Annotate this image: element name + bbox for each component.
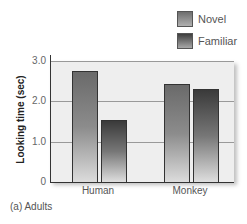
legend-label-novel: Novel: [198, 13, 226, 25]
legend: Novel Familiar: [177, 8, 237, 52]
bar-human-familiar: [101, 120, 127, 182]
x-label-human: Human: [68, 185, 128, 196]
figure-caption: (a) Adults: [10, 201, 52, 212]
legend-item-familiar: Familiar: [177, 30, 237, 52]
legend-item-novel: Novel: [177, 8, 237, 30]
legend-swatch-familiar: [177, 33, 193, 49]
y-tick-2: 2.0: [22, 95, 46, 106]
legend-label-familiar: Familiar: [198, 35, 237, 47]
y-tick-1: 1.0: [22, 136, 46, 147]
x-label-monkey: Monkey: [160, 185, 220, 196]
y-axis-label: Looking time (sec): [15, 70, 26, 170]
bar-monkey-novel: [164, 84, 190, 182]
gridline-3: [50, 61, 234, 62]
bar-monkey-familiar: [193, 89, 219, 182]
bar-human-novel: [72, 71, 98, 182]
y-tick-0: 0: [22, 176, 46, 187]
x-axis: [50, 182, 234, 183]
legend-swatch-novel: [177, 11, 193, 27]
y-tick-3: 3.0: [22, 55, 46, 66]
y-axis: [50, 55, 51, 183]
